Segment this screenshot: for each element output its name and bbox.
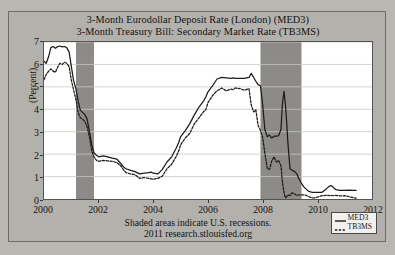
- y-tick-mark: [40, 155, 43, 156]
- y-tick-mark: [40, 109, 43, 110]
- legend-swatch-solid-icon: [335, 215, 346, 221]
- x-tick-mark: [208, 200, 209, 203]
- chart-frame: 3-Month Eurodollar Deposit Rate (London)…: [8, 11, 386, 242]
- y-tick-mark: [40, 200, 43, 201]
- x-tick-label: 2002: [88, 204, 108, 215]
- plot-area-wrapper: (Percent) 012345672000200220042006200820…: [43, 41, 373, 200]
- x-tick-label: 2008: [253, 204, 273, 215]
- y-tick-label: 1: [34, 172, 39, 183]
- x-tick-mark: [153, 200, 154, 203]
- plot-area: [43, 41, 373, 200]
- y-tick-mark: [40, 177, 43, 178]
- chart-legend: MED3 TB3MS: [331, 212, 377, 234]
- chart-title-line-1: 3-Month Eurodollar Deposit Rate (London)…: [9, 14, 387, 26]
- y-tick-mark: [40, 132, 43, 133]
- y-tick-mark: [40, 86, 43, 87]
- recession-band: [76, 42, 94, 199]
- x-tick-label: 2010: [308, 204, 328, 215]
- y-tick-mark: [40, 41, 43, 42]
- y-tick-mark: [40, 64, 43, 65]
- legend-label-tb3ms: TB3MS: [348, 223, 372, 232]
- y-tick-label: 4: [34, 104, 39, 115]
- chart-title: 3-Month Eurodollar Deposit Rate (London)…: [9, 14, 387, 37]
- legend-swatch-dashed-icon: [335, 224, 346, 230]
- x-tick-label: 2000: [33, 204, 53, 215]
- y-tick-label: 5: [34, 81, 39, 92]
- y-tick-label: 6: [34, 58, 39, 69]
- x-tick-label: 2006: [198, 204, 218, 215]
- x-tick-mark: [263, 200, 264, 203]
- legend-item-tb3ms: TB3MS: [335, 223, 372, 232]
- y-tick-label: 2: [34, 149, 39, 160]
- chart-canvas: [44, 42, 372, 199]
- chart-title-line-2: 3-Month Treasury Bill: Secondary Market …: [9, 26, 387, 38]
- y-tick-label: 3: [34, 126, 39, 137]
- x-tick-label: 2004: [143, 204, 163, 215]
- x-tick-mark: [318, 200, 319, 203]
- x-tick-mark: [98, 200, 99, 203]
- y-tick-label: 7: [34, 36, 39, 47]
